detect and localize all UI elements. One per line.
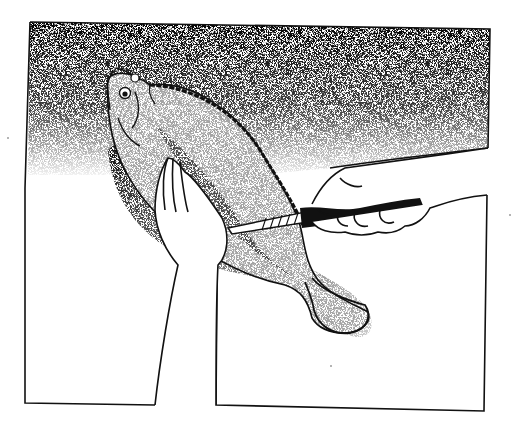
illustration-canvas: [0, 0, 514, 430]
